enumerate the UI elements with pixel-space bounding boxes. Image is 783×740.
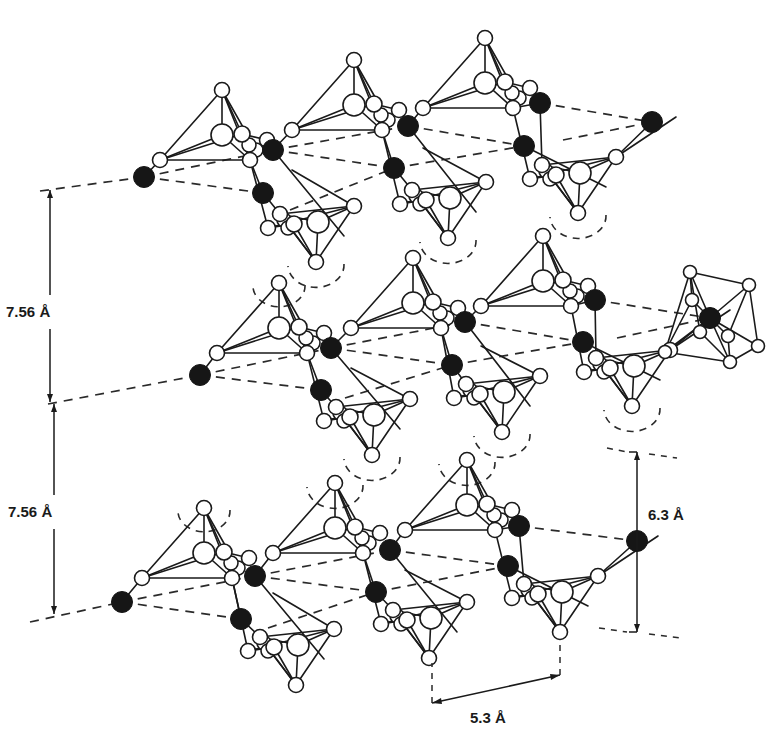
dashed-link bbox=[452, 342, 583, 365]
tetrahedron-atoms bbox=[398, 453, 520, 538]
oxygen-atom bbox=[418, 192, 434, 208]
oxygen-atom bbox=[347, 199, 362, 214]
oxygen-atom bbox=[602, 360, 618, 376]
oxygen-atom bbox=[347, 519, 363, 535]
cation-atom bbox=[321, 338, 342, 359]
tetrahedron-atoms bbox=[317, 392, 418, 463]
oxygen-atom bbox=[555, 272, 571, 288]
oxygen-atom bbox=[375, 123, 390, 138]
crystal-structure-diagram: 7.56 Å 7.56 Å 6.3 Å 5.3 Å bbox=[0, 0, 783, 740]
oxygen-atom bbox=[564, 299, 579, 314]
cation-atom bbox=[190, 365, 211, 386]
cation-atom bbox=[398, 116, 419, 137]
dashed-link bbox=[390, 550, 508, 566]
dashed-link bbox=[465, 322, 583, 342]
oxygen-atom bbox=[589, 351, 604, 366]
oxygen-atom bbox=[261, 221, 276, 236]
oxygen-atom bbox=[505, 591, 520, 606]
oxygen-atom bbox=[488, 523, 503, 538]
oxygen-atom bbox=[289, 678, 304, 693]
cation-atom bbox=[585, 290, 606, 311]
oxygen-atom bbox=[266, 639, 282, 655]
tetrahedron-atoms bbox=[285, 53, 407, 138]
cation-atom bbox=[245, 566, 266, 587]
cation-atom bbox=[231, 609, 252, 630]
tetrahedron-atoms bbox=[210, 276, 332, 361]
oxygen-atom bbox=[535, 158, 550, 173]
oxygen-atom bbox=[478, 31, 493, 46]
oxygen-atom bbox=[420, 607, 442, 629]
oxygen-atom bbox=[577, 365, 592, 380]
oxygen-atom bbox=[197, 501, 212, 516]
oxygen-atom bbox=[479, 175, 494, 190]
dim-label-interlayer-top: 7.56 Å bbox=[6, 303, 50, 320]
oxygen-atom bbox=[493, 381, 515, 403]
oxygen-atom bbox=[386, 603, 401, 618]
tetrahedron-atoms bbox=[523, 150, 624, 221]
oxygen-atom bbox=[425, 294, 441, 310]
oxygen-atom bbox=[548, 167, 564, 183]
oxygen-atom bbox=[609, 150, 624, 165]
dashed-link bbox=[144, 177, 263, 193]
oxygen-atom bbox=[135, 571, 150, 586]
oxygen-atom bbox=[456, 494, 478, 516]
oxygen-atom bbox=[532, 270, 554, 292]
oxygen-atom bbox=[268, 317, 290, 339]
oxygen-atom bbox=[497, 74, 513, 90]
tetrahedron-atoms bbox=[241, 622, 342, 693]
oxygen-atom bbox=[344, 321, 359, 336]
cation-atom bbox=[384, 158, 405, 179]
oxygen-atom bbox=[533, 369, 548, 384]
oxygen-atom bbox=[551, 581, 573, 603]
cation-atom bbox=[263, 140, 284, 161]
oxygen-atom bbox=[393, 197, 408, 212]
cation-atom bbox=[530, 93, 551, 114]
dashed-link bbox=[255, 576, 376, 592]
oxygen-atom bbox=[571, 206, 586, 221]
oxygen-atom bbox=[216, 544, 232, 560]
oxygen-atom bbox=[365, 448, 380, 463]
cation-atom bbox=[366, 582, 387, 603]
cation-atom bbox=[514, 136, 535, 157]
oxygen-atom bbox=[434, 321, 449, 336]
dim-label-interlayer-bottom: 7.56 Å bbox=[8, 503, 52, 520]
oxygen-atom bbox=[363, 404, 385, 426]
oxygen-atom bbox=[479, 496, 495, 512]
oxygen-atom bbox=[291, 319, 307, 335]
oxygen-atom bbox=[241, 644, 256, 659]
cation-atom bbox=[112, 592, 133, 613]
oxygen-atom bbox=[523, 172, 538, 187]
oxygen-atom bbox=[317, 414, 332, 429]
oxygen-atom bbox=[266, 546, 281, 561]
cation-atom bbox=[442, 355, 463, 376]
dashed-link bbox=[200, 375, 321, 390]
oxygen-atom bbox=[422, 651, 437, 666]
cation-atom bbox=[380, 540, 401, 561]
oxygen-atom bbox=[569, 162, 591, 184]
oxygen-atom bbox=[459, 377, 474, 392]
cation-atom bbox=[134, 167, 155, 188]
oxygen-atom bbox=[242, 551, 257, 566]
tetrahedron-atoms bbox=[266, 476, 388, 561]
oxygen-atom bbox=[234, 126, 250, 142]
oxygen-atom bbox=[553, 625, 568, 640]
oxygen-atom bbox=[506, 101, 521, 116]
dashed-link bbox=[331, 348, 452, 365]
oxygen-atom bbox=[724, 356, 737, 369]
dashed-link bbox=[519, 526, 637, 541]
oxygen-atom bbox=[406, 251, 421, 266]
tetrahedron-atoms bbox=[135, 501, 257, 586]
oxygen-atom bbox=[392, 103, 407, 118]
oxygen-atom bbox=[343, 94, 365, 116]
oxygen-atom bbox=[474, 299, 489, 314]
oxygen-atom bbox=[530, 586, 546, 602]
dashed-link bbox=[122, 602, 241, 619]
oxygen-atom bbox=[243, 153, 258, 168]
dashed-link bbox=[540, 103, 652, 122]
oxygen-atom bbox=[342, 409, 358, 425]
oxygen-atom bbox=[366, 96, 382, 112]
octahedral-cation bbox=[700, 308, 720, 328]
oxygen-atom bbox=[373, 526, 388, 541]
oxygen-atom bbox=[403, 392, 418, 407]
dashed-link bbox=[394, 146, 524, 168]
